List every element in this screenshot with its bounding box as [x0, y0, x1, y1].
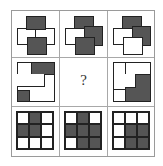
grid-square: [17, 112, 29, 124]
cell-r3-c2: [60, 107, 108, 156]
cell-r1-c1: [12, 11, 60, 58]
grid-square: [113, 137, 125, 149]
top-square: [26, 16, 46, 30]
grid-square: [113, 112, 125, 124]
grid-square: [125, 137, 137, 149]
cell-r2-c3: [108, 58, 154, 107]
grid-square: [137, 112, 149, 124]
grid-square: [29, 124, 41, 136]
grid-square: [65, 137, 77, 149]
question-mark: ?: [60, 72, 107, 89]
grid-square: [125, 124, 137, 136]
grid-square: [65, 124, 77, 136]
grid-square: [113, 124, 125, 136]
puzzle-grid: ?: [11, 10, 155, 157]
cell-r1-c3: [108, 11, 154, 58]
cell-r2-c1: [12, 58, 60, 107]
three-by-three-grid: [16, 111, 54, 150]
grid-square: [17, 124, 29, 136]
bottom-square: [75, 37, 95, 55]
grid-square: [89, 137, 101, 149]
inner-notch: [125, 74, 136, 88]
three-by-three-grid: [64, 111, 102, 150]
grid-square: [77, 112, 89, 124]
three-by-three-grid: [112, 111, 150, 150]
grid-square: [89, 124, 101, 136]
grid-square: [89, 112, 101, 124]
grid-square: [77, 137, 89, 149]
grid-square: [125, 112, 137, 124]
grid-square: [29, 112, 41, 124]
cell-r3-c3: [108, 107, 154, 156]
grid-square: [41, 124, 53, 136]
grid-square: [41, 137, 53, 149]
bottom-square: [123, 37, 143, 55]
middle-step: [17, 74, 45, 87]
bottom-left-block: [17, 90, 30, 102]
cell-r2-c2-missing[interactable]: ?: [60, 58, 108, 107]
cell-r3-c1: [12, 107, 60, 156]
grid-square: [41, 112, 53, 124]
bottom-square: [27, 37, 47, 55]
grid-square: [77, 124, 89, 136]
cell-r1-c2: [60, 11, 108, 58]
grid-square: [29, 137, 41, 149]
grid-square: [137, 124, 149, 136]
bottom-left-block: [113, 89, 126, 102]
grid-square: [65, 112, 77, 124]
grid-square: [17, 137, 29, 149]
grid-square: [137, 137, 149, 149]
